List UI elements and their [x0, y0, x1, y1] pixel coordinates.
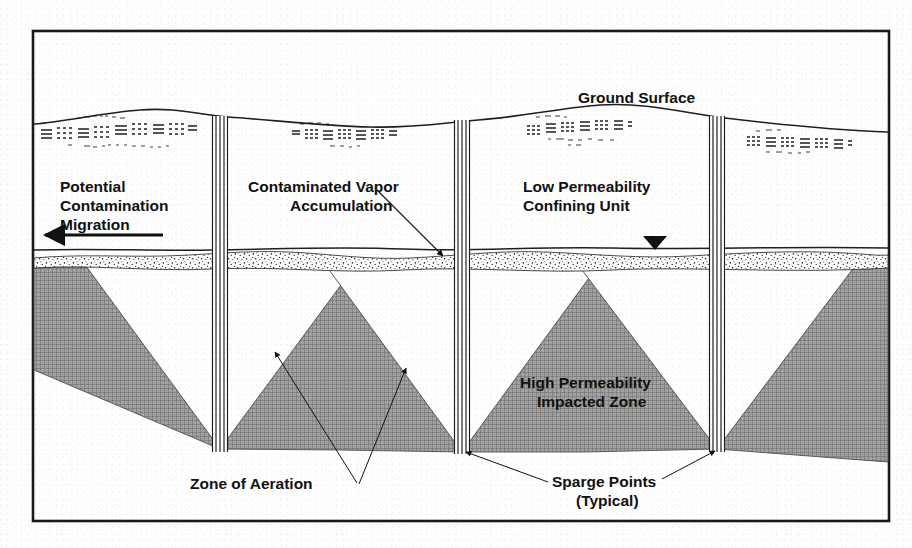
potential-migration-line-1: Potential: [60, 178, 125, 195]
zone-of-aeration-label: Zone of Aeration: [190, 475, 313, 492]
cross-section-figure: Ground Surface Potential Contamination M…: [0, 0, 912, 548]
high-permeability-line-2: Impacted Zone: [537, 393, 647, 410]
potential-migration-line-3: Migration: [60, 216, 130, 233]
low-permeability-line-2: Confining Unit: [523, 197, 630, 214]
sparge-well-2: [454, 120, 470, 454]
contaminated-vapor-line-2: Accumulation: [290, 197, 392, 214]
high-permeability-line-1: High Permeability: [520, 374, 651, 391]
ground-surface-label: Ground Surface: [578, 89, 696, 106]
sparge-well-1: [212, 116, 228, 452]
sparge-points-line-1: Sparge Points: [552, 473, 656, 490]
diagram-canvas: Ground Surface Potential Contamination M…: [0, 0, 912, 548]
sparge-well-3: [709, 116, 725, 452]
sparge-points-line-2: (Typical): [576, 492, 639, 509]
low-permeability-line-1: Low Permeability: [523, 178, 651, 195]
potential-migration-line-2: Contamination: [60, 197, 169, 214]
contaminated-vapor-line-1: Contaminated Vapor: [248, 178, 399, 195]
